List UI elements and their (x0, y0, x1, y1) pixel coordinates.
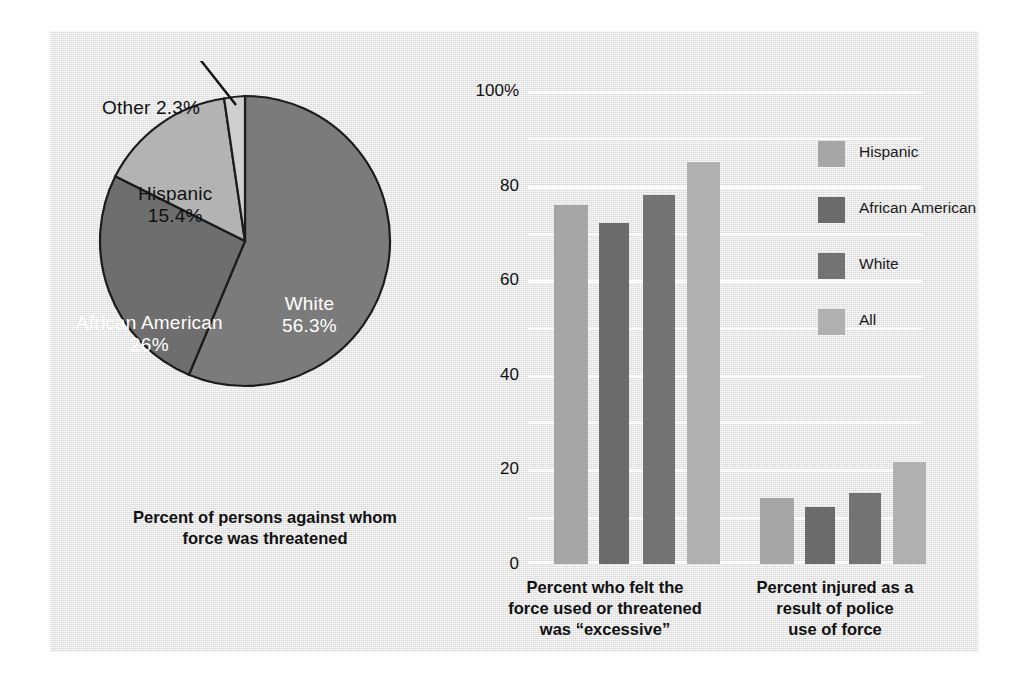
pie-caption-line-2: force was threatened (70, 528, 460, 549)
legend-swatch-hispanic (818, 141, 845, 167)
gridline-100 (528, 91, 923, 94)
group-caption-excessive: Percent who felt the force used or threa… (490, 577, 720, 640)
pie-chart-section: Other 2.3% Hispanic 15.4% African Americ… (50, 31, 480, 652)
legend-label-hispanic: Hispanic (859, 143, 918, 161)
bar-g1-white (643, 195, 675, 564)
ytick-label-60: 60 (500, 270, 519, 290)
legend-swatch-all (818, 309, 845, 335)
pie-label-other: Other 2.3% (102, 97, 200, 119)
bar-g2-white (849, 493, 881, 564)
ytick-label-100: 100% (476, 81, 519, 101)
bar-chart-plot-area: 100% 80 60 40 20 0 (528, 91, 923, 564)
figure-root: Other 2.3% Hispanic 15.4% African Americ… (0, 0, 1019, 675)
bar-chart-section: 100% 80 60 40 20 0 (450, 31, 978, 652)
ytick-label-0: 0 (510, 554, 519, 574)
group-caption-excessive-line-1: Percent who felt the (490, 577, 720, 598)
ytick-label-20: 20 (500, 459, 519, 479)
gridline-90 (528, 138, 923, 140)
pie-caption: Percent of persons against whom force wa… (70, 507, 460, 549)
legend-swatch-white (818, 253, 845, 279)
group-caption-injured-line-3: use of force (735, 619, 935, 640)
legend-label-african-american: African American (859, 199, 976, 217)
other-leader-line (195, 61, 236, 105)
pie-label-african-american-value: 26% (76, 334, 223, 356)
pie-label-hispanic-value: 15.4% (138, 205, 212, 227)
group-caption-injured-line-1: Percent injured as a (735, 577, 935, 598)
bar-g1-all (687, 162, 720, 564)
pie-label-white-value: 56.3% (282, 315, 337, 337)
group-caption-excessive-line-2: force used or threatened (490, 598, 720, 619)
pie-label-hispanic-name: Hispanic (138, 183, 212, 205)
pie-label-hispanic: Hispanic 15.4% (138, 183, 212, 227)
chart-panel: Other 2.3% Hispanic 15.4% African Americ… (50, 31, 978, 652)
bar-g2-hispanic (760, 498, 794, 564)
bar-g1-hispanic (554, 205, 588, 565)
ytick-label-40: 40 (500, 365, 519, 385)
bar-g2-all (893, 462, 926, 564)
pie-label-african-american: African American 26% (76, 312, 223, 356)
pie-label-african-american-name: African American (76, 312, 223, 334)
legend-swatch-african-american (818, 197, 845, 223)
bar-g1-african-american (599, 223, 629, 564)
gridline-80 (528, 186, 923, 189)
pie-label-white: White 56.3% (282, 293, 337, 337)
pie-label-white-name: White (282, 293, 337, 315)
ytick-label-80: 80 (500, 176, 519, 196)
bar-g2-african-american (805, 507, 835, 564)
group-caption-injured-line-2: result of police (735, 598, 935, 619)
legend-label-all: All (859, 311, 876, 329)
legend-label-white: White (859, 255, 899, 273)
group-caption-injured: Percent injured as a result of police us… (735, 577, 935, 640)
group-caption-excessive-line-3: was “excessive” (490, 619, 720, 640)
pie-caption-line-1: Percent of persons against whom (70, 507, 460, 528)
